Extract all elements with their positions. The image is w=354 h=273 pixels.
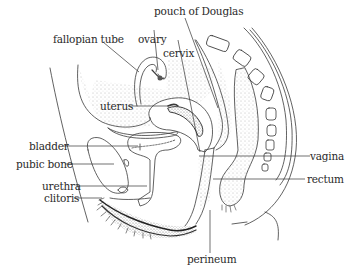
label-pubic-bone: pubic bone — [16, 158, 73, 170]
label-ovary: ovary — [138, 33, 166, 45]
label-rectum: rectum — [307, 173, 344, 185]
buttock-line — [265, 212, 278, 240]
label-perineum: perineum — [187, 253, 236, 265]
label-clitoris: clitoris — [44, 192, 79, 204]
label-urethra: urethra — [42, 180, 81, 192]
bladder-shape — [128, 132, 181, 206]
label-pouch-of-douglas: pouch of Douglas — [154, 5, 243, 17]
anatomy-diagram: pouch of Douglas fallopian tube ovary ce… — [0, 0, 354, 273]
label-fallopian-tube: fallopian tube — [53, 33, 124, 45]
label-vagina: vagina — [310, 150, 344, 162]
label-uterus: uterus — [100, 100, 133, 112]
label-bladder: bladder — [29, 140, 69, 152]
label-cervix: cervix — [163, 47, 194, 59]
